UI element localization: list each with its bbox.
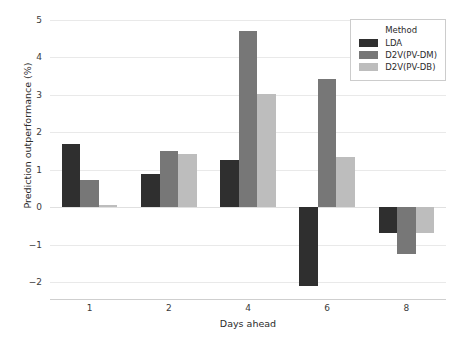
legend-item: D2V(PV-DM) bbox=[359, 50, 437, 60]
legend-item-label: D2V(PV-DM) bbox=[385, 50, 437, 60]
bar-chart-figure: 543210−1−2 12468 Days ahead Prediction o… bbox=[0, 0, 454, 343]
y-tick-label: −2 bbox=[0, 277, 42, 287]
legend: Method LDAD2V(PV-DM)D2V(PV-DB) bbox=[350, 19, 446, 81]
x-tick-label: 1 bbox=[87, 303, 93, 313]
legend-swatch-icon bbox=[359, 51, 378, 59]
legend-item-label: D2V(PV-DB) bbox=[385, 62, 435, 72]
x-tick-label: 4 bbox=[245, 303, 251, 313]
legend-item: D2V(PV-DB) bbox=[359, 62, 437, 72]
y-axis-title: Prediction outperformance (%) bbox=[22, 6, 33, 266]
legend-entries: LDAD2V(PV-DM)D2V(PV-DB) bbox=[359, 38, 437, 72]
x-tick-label: 2 bbox=[166, 303, 172, 313]
legend-swatch-icon bbox=[359, 63, 378, 71]
x-tick-label: 8 bbox=[404, 303, 410, 313]
x-axis-tick-labels: 12468 bbox=[50, 303, 446, 319]
legend-item-label: LDA bbox=[385, 38, 402, 48]
x-axis-title: Days ahead bbox=[50, 318, 446, 329]
legend-item: LDA bbox=[359, 38, 437, 48]
x-tick-label: 6 bbox=[324, 303, 330, 313]
legend-swatch-icon bbox=[359, 39, 378, 47]
legend-title: Method bbox=[359, 25, 437, 35]
x-axis-spine bbox=[50, 299, 446, 300]
